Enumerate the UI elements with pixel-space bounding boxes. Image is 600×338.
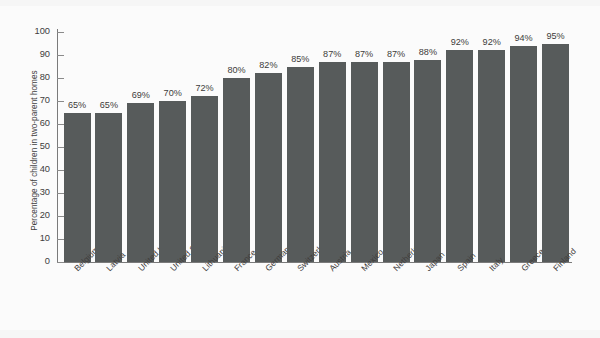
bar[interactable] xyxy=(446,50,473,262)
bar[interactable] xyxy=(127,103,154,262)
y-tick-label: 0 xyxy=(22,257,50,266)
bar[interactable] xyxy=(510,46,537,262)
bar[interactable] xyxy=(255,73,282,262)
bar-value-label: 65% xyxy=(89,101,129,110)
y-tick-mark xyxy=(57,78,64,79)
y-tick-label: 20 xyxy=(22,211,50,220)
y-tick-label: 100 xyxy=(22,27,50,36)
scan-texture xyxy=(0,330,600,338)
y-tick-label: 60 xyxy=(22,119,50,128)
y-tick-label: 30 xyxy=(22,188,50,197)
bar[interactable] xyxy=(95,113,122,263)
y-tick-label: 90 xyxy=(22,50,50,59)
bar[interactable] xyxy=(64,113,91,263)
y-tick-mark xyxy=(57,32,64,33)
bar[interactable] xyxy=(287,67,314,263)
y-tick-label: 50 xyxy=(22,142,50,151)
bar[interactable] xyxy=(383,62,410,262)
y-tick-mark xyxy=(57,55,64,56)
y-tick-label: 70 xyxy=(22,96,50,105)
bar[interactable] xyxy=(351,62,378,262)
bar[interactable] xyxy=(319,62,346,262)
bar[interactable] xyxy=(191,96,218,262)
bar[interactable] xyxy=(223,78,250,262)
bar[interactable] xyxy=(159,101,186,262)
bar-chart: Percentage of children in two-parent hom… xyxy=(0,0,600,338)
y-tick-label: 80 xyxy=(22,73,50,82)
scan-texture xyxy=(0,0,600,6)
bar[interactable] xyxy=(414,60,441,262)
bar-value-label: 88% xyxy=(408,48,448,57)
bar[interactable] xyxy=(542,44,569,263)
bar-value-label: 72% xyxy=(185,84,225,93)
bar-value-label: 95% xyxy=(536,32,576,41)
bar[interactable] xyxy=(478,50,505,262)
y-tick-label: 10 xyxy=(22,234,50,243)
y-tick-label: 40 xyxy=(22,165,50,174)
